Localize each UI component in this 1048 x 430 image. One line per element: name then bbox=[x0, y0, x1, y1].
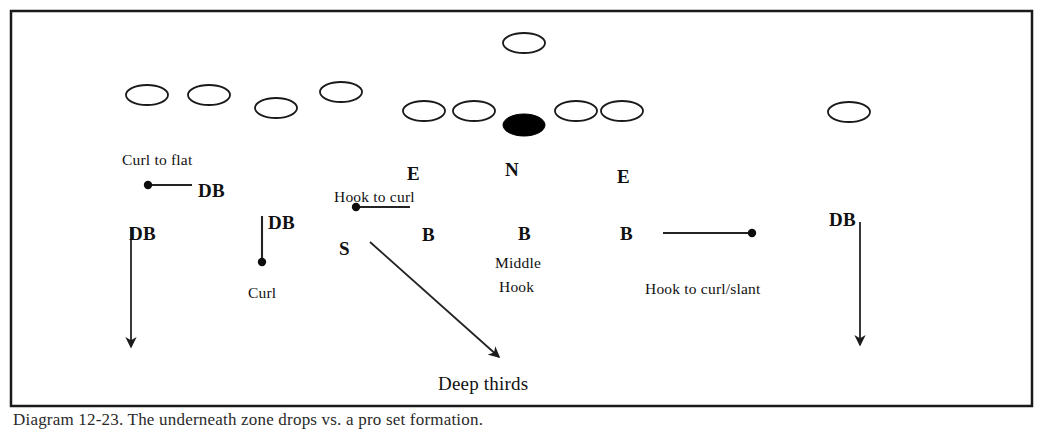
diagram-canvas bbox=[0, 0, 1048, 430]
diagram-frame bbox=[11, 11, 1032, 406]
position-label-n: N bbox=[505, 160, 519, 179]
position-label-b-right: B bbox=[620, 224, 633, 243]
player-ol-left-2 bbox=[403, 101, 445, 121]
position-label-db-2: DB bbox=[268, 213, 295, 232]
position-label-b-mid: B bbox=[518, 224, 531, 243]
player-wr-left-2 bbox=[188, 85, 230, 105]
assignment-curl: Curl bbox=[248, 285, 276, 301]
route-hook-to-curl-slant-endpoint-dot bbox=[748, 229, 756, 237]
assignment-hook-to-curl-slant: Hook to curl/slant bbox=[645, 281, 761, 297]
position-label-db-1: DB bbox=[198, 181, 225, 200]
player-ol-left-1 bbox=[255, 98, 297, 118]
player-qb bbox=[503, 33, 545, 53]
player-te-left bbox=[320, 82, 362, 102]
player-ol-left-3 bbox=[453, 101, 495, 121]
assignment-deep-thirds: Deep thirds bbox=[438, 374, 528, 393]
figure-caption: Diagram 12-23. The underneath zone drops… bbox=[13, 411, 483, 428]
assignment-middle: Middle bbox=[495, 255, 541, 271]
position-label-s: S bbox=[339, 239, 350, 258]
player-ol-right-1 bbox=[555, 101, 597, 121]
route-curl-db-endpoint-dot bbox=[258, 258, 266, 266]
assignment-hook-to-curl: Hook to curl bbox=[334, 189, 415, 205]
position-label-e-left: E bbox=[407, 164, 420, 183]
position-label-e-right: E bbox=[617, 167, 630, 186]
assignment-curl-to-flat: Curl to flat bbox=[122, 152, 192, 168]
player-wr-left-1 bbox=[126, 85, 168, 105]
position-label-db-4: DB bbox=[829, 210, 856, 229]
position-label-b-left: B bbox=[422, 225, 435, 244]
route-curl-to-flat-endpoint-dot bbox=[144, 181, 152, 189]
position-label-db-3: DB bbox=[129, 224, 156, 243]
play-diagram-figure: ENEDBDBDBDBBBBSCurl to flatHook to curlC… bbox=[0, 0, 1048, 430]
assignment-hook: Hook bbox=[499, 279, 534, 295]
player-center-ball bbox=[503, 114, 545, 136]
player-wr-right bbox=[828, 102, 870, 122]
player-ol-right-2 bbox=[601, 101, 643, 121]
